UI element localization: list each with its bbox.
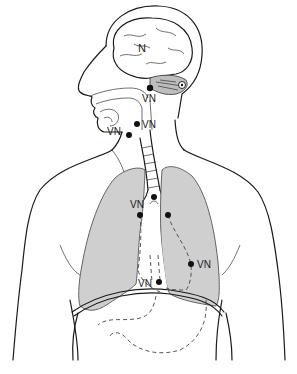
pharynx-node [134, 121, 140, 127]
brainstem-node [147, 85, 153, 91]
left-lung [161, 167, 220, 306]
pharynx-label: VN [142, 119, 156, 130]
brainstem-label: VN [142, 93, 156, 104]
left-lung-label: VN [197, 259, 211, 270]
vagus-nerve-diagram: N VN VN VN [0, 0, 297, 374]
heart-region-node [156, 279, 162, 285]
carina-node [151, 194, 157, 200]
carina-label: VN [130, 199, 144, 210]
left-bronchus-node [165, 212, 171, 218]
brain-label: N [138, 42, 146, 54]
right-lung [79, 168, 145, 310]
larynx-node [126, 132, 132, 138]
larynx-label: VN [107, 126, 121, 137]
brain [113, 18, 192, 95]
head [78, 6, 202, 132]
heart-region-label: VN [138, 278, 152, 289]
right-bronchus-node [137, 212, 143, 218]
left-lung-node [188, 261, 194, 267]
